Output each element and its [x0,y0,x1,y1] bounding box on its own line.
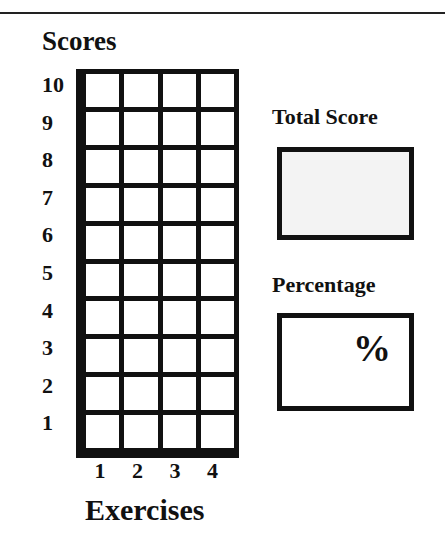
grid-cell[interactable] [124,188,157,221]
top-rule [0,12,445,14]
grid-cell[interactable] [163,415,196,448]
y-axis-label: 6 [42,222,72,248]
grid-cell[interactable] [86,264,119,297]
y-axis-label: 10 [42,72,72,98]
grid-cell[interactable] [201,339,234,372]
grid-cell[interactable] [201,150,234,183]
grid-cell[interactable] [86,377,119,410]
x-axis-label: 1 [85,458,115,484]
scores-title: Scores [42,26,117,57]
grid-cell[interactable] [124,377,157,410]
y-axis-label: 1 [42,410,72,436]
x-axis-label: 3 [160,458,190,484]
grid-cell[interactable] [86,301,119,334]
grid-cell[interactable] [86,226,119,259]
x-axis-label: 2 [123,458,153,484]
grid-cell[interactable] [124,301,157,334]
exercises-title: Exercises [85,493,204,527]
y-axis-label: 8 [42,147,72,173]
y-axis-label: 5 [42,260,72,286]
grid-cell[interactable] [201,301,234,334]
grid-cell[interactable] [86,415,119,448]
grid-cell[interactable] [163,112,196,145]
x-axis-label: 4 [198,458,228,484]
grid-cell[interactable] [163,74,196,107]
grid-cell[interactable] [163,188,196,221]
grid-cell[interactable] [86,74,119,107]
grid-cell[interactable] [201,112,234,145]
y-axis-label: 2 [42,373,72,399]
grid-cell[interactable] [201,226,234,259]
score-grid [76,69,239,458]
y-axis-label: 3 [42,335,72,361]
grid-cell[interactable] [201,188,234,221]
grid-cell[interactable] [163,150,196,183]
total-score-box[interactable] [277,147,414,240]
grid-cell[interactable] [86,112,119,145]
grid-cell[interactable] [86,150,119,183]
grid-cell[interactable] [163,377,196,410]
grid-cell[interactable] [201,415,234,448]
grid-cell[interactable] [163,301,196,334]
grid-cell[interactable] [124,150,157,183]
grid-cell[interactable] [86,339,119,372]
grid-cell[interactable] [124,415,157,448]
y-axis-label: 4 [42,298,72,324]
grid-cell[interactable] [163,264,196,297]
grid-cell[interactable] [163,226,196,259]
grid-cell[interactable] [124,226,157,259]
grid-cell[interactable] [124,112,157,145]
grid-cell[interactable] [163,339,196,372]
grid-cell[interactable] [201,377,234,410]
y-axis-label: 7 [42,185,72,211]
grid-cell[interactable] [86,188,119,221]
percent-sign: % [353,326,391,370]
grid-cell[interactable] [124,74,157,107]
total-score-label: Total Score [272,104,378,130]
percentage-label: Percentage [272,272,375,298]
y-axis-label: 9 [42,110,72,136]
grid-cell[interactable] [124,264,157,297]
percentage-box[interactable]: % [277,313,414,411]
grid-cell[interactable] [201,74,234,107]
grid-cell[interactable] [124,339,157,372]
grid-cell[interactable] [201,264,234,297]
